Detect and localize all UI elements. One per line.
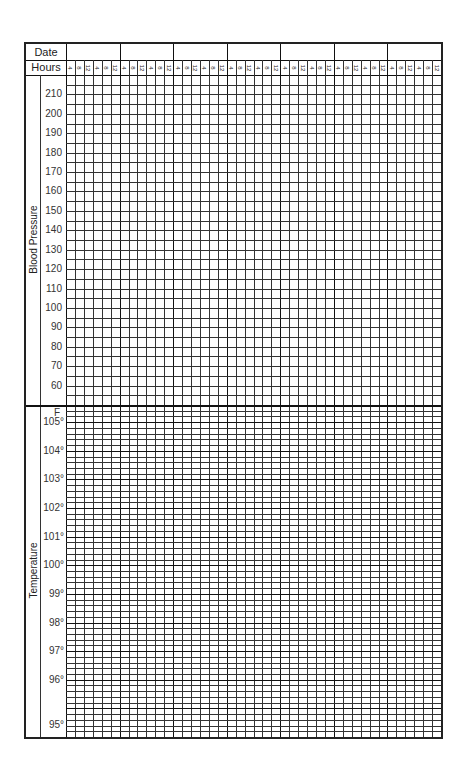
date-cell-3[interactable]: [173, 44, 227, 60]
temp-grid-line: [66, 708, 441, 709]
hour-tick: 4: [415, 62, 423, 74]
bp-grid-line: [66, 240, 441, 241]
hour-tick: 8: [156, 62, 164, 74]
hour-tick: 4: [66, 62, 74, 74]
bp-axis-label: 100: [40, 302, 62, 313]
bp-grid-line: [66, 182, 441, 183]
bp-grid-line: [66, 289, 441, 290]
hour-tick: 12: [299, 62, 307, 74]
bp-grid-line: [66, 395, 441, 396]
temp-grid-line: [66, 588, 441, 589]
temp-axis-label: 99°: [40, 588, 64, 599]
temp-grid-line: [66, 514, 441, 515]
hour-tick: 4: [120, 62, 128, 74]
temp-grid-line: [66, 628, 441, 629]
hour-tick: 12: [191, 62, 199, 74]
temp-grid-line: [66, 462, 441, 463]
temp-grid-line: [66, 611, 441, 612]
temp-grid-line: [66, 565, 441, 566]
hour-tick: 12: [325, 62, 333, 74]
hour-tick: 8: [397, 62, 405, 74]
hour-tick: 8: [236, 62, 244, 74]
hour-tick: 12: [245, 62, 253, 74]
hour-tick: 4: [147, 62, 155, 74]
temp-grid-line: [66, 571, 441, 572]
bp-grid-line: [66, 201, 441, 202]
date-cell-4[interactable]: [227, 44, 281, 60]
hour-tick: 12: [433, 62, 441, 74]
temp-grid-line: [66, 416, 441, 417]
hour-tick: 8: [343, 62, 351, 74]
bp-axis-label: 160: [40, 185, 62, 196]
temp-grid-line: [66, 519, 441, 520]
temp-axis-label: 102°: [40, 502, 64, 513]
temp-grid-line: [66, 497, 441, 498]
bp-grid-line: [66, 337, 441, 338]
bp-axis-label: 180: [40, 147, 62, 158]
hour-tick: 12: [165, 62, 173, 74]
temp-grid-line: [66, 731, 441, 732]
bp-axis-label: 170: [40, 166, 62, 177]
date-cell-2[interactable]: [120, 44, 174, 60]
bp-grid-line: [66, 153, 441, 154]
temp-grid-line: [66, 525, 441, 526]
hour-tick: 4: [254, 62, 262, 74]
bp-grid-line: [66, 114, 441, 115]
bp-axis-label: 120: [40, 263, 62, 274]
hour-tick: 4: [281, 62, 289, 74]
bp-grid-line: [66, 318, 441, 319]
vital-signs-chart: DateHours4812481248124812481248124812481…: [24, 42, 443, 739]
date-cell-6[interactable]: [334, 44, 388, 60]
temp-grid-line: [66, 428, 441, 429]
temp-grid-line: [66, 554, 441, 555]
temp-grid-line: [66, 508, 441, 509]
temp-grid-line: [66, 445, 441, 446]
bp-grid-line: [66, 221, 441, 222]
bp-axis-label: 190: [40, 127, 62, 138]
bp-axis-label: 200: [40, 108, 62, 119]
bp-grid-line: [66, 279, 441, 280]
bp-grid-line: [66, 172, 441, 173]
hour-tick: 4: [361, 62, 369, 74]
temp-grid-line: [66, 577, 441, 578]
temp-grid-line: [66, 685, 441, 686]
temp-grid-line: [66, 474, 441, 475]
date-label: Date: [26, 45, 66, 61]
temp-grid-line: [66, 434, 441, 435]
temp-grid-line: [66, 623, 441, 624]
bp-grid-line: [66, 308, 441, 309]
hour-tick: 4: [174, 62, 182, 74]
hours-label: Hours: [26, 60, 66, 75]
date-cell-1[interactable]: [66, 44, 120, 60]
bp-axis-label: 90: [40, 321, 62, 332]
bp-axis-label: 70: [40, 360, 62, 371]
hour-tick: 4: [227, 62, 235, 74]
bp-grid-line: [66, 269, 441, 270]
temp-grid-line: [66, 548, 441, 549]
bp-grid-line: [66, 85, 441, 86]
date-cell-5[interactable]: [280, 44, 334, 60]
bp-grid-line: [66, 298, 441, 299]
hour-tick: 12: [352, 62, 360, 74]
temp-grid-line: [66, 674, 441, 675]
temp-grid-line: [66, 582, 441, 583]
bp-axis-label: 210: [40, 88, 62, 99]
hour-tick: 4: [93, 62, 101, 74]
temp-grid-line: [66, 726, 441, 727]
temp-grid-line: [66, 439, 441, 440]
hour-tick: 8: [424, 62, 432, 74]
temp-axis-label: 101°: [40, 531, 64, 542]
date-cell-7[interactable]: [387, 44, 441, 60]
temp-grid-line: [66, 703, 441, 704]
hour-tick: 12: [406, 62, 414, 74]
bp-axis-label: 110: [40, 283, 62, 294]
temp-grid-line: [66, 468, 441, 469]
temp-grid-line: [66, 657, 441, 658]
bp-section-title: Blood Pressure: [28, 180, 39, 300]
temp-grid-line: [66, 491, 441, 492]
temp-axis-label: 100°: [40, 559, 64, 570]
temp-grid-line: [66, 714, 441, 715]
temp-grid-line: [66, 651, 441, 652]
bp-grid-line: [66, 259, 441, 260]
bp-grid-line: [66, 366, 441, 367]
